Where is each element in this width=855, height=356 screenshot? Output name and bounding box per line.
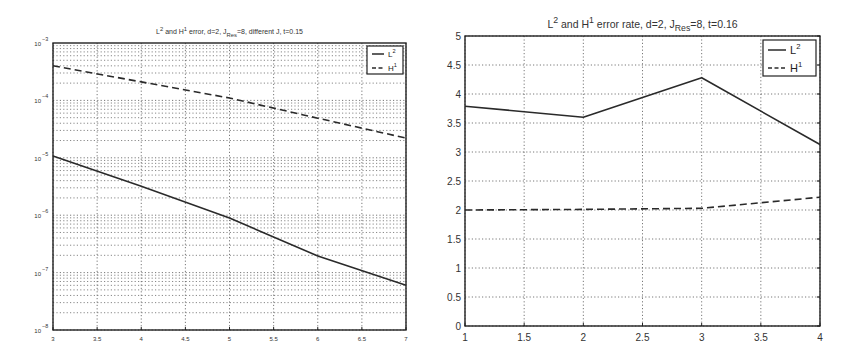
x-tick-label: 3.5: [93, 336, 102, 342]
x-tick-label: 4: [140, 336, 144, 342]
y-tick-label: 10: [34, 213, 41, 219]
x-tick-label: 7: [404, 336, 408, 342]
left-chart-title: L2 and H1 error, d=2, JRes=8, different …: [53, 26, 406, 38]
title-sub: Res: [227, 32, 237, 38]
x-tick-label: 3.5: [754, 332, 768, 343]
title-sub: Res: [675, 23, 691, 33]
x-tick-label: 5.5: [269, 336, 278, 342]
x-tick-label: 4: [817, 332, 823, 343]
y-tick-label: 3.5: [447, 118, 461, 129]
y-tick-label: 4: [455, 89, 461, 100]
title-text: =8, t=0.16: [690, 18, 737, 30]
y-tick-exponent: −5: [42, 151, 48, 157]
y-tick-label: 10: [34, 41, 41, 47]
x-tick-label: 6: [316, 336, 320, 342]
y-tick-exponent: −6: [42, 208, 48, 214]
right-chart-title: L2 and H1 error rate, d=2, JRes=8, t=0.1…: [465, 15, 820, 33]
legend-box: [367, 46, 403, 74]
right-chart-plot: 11.522.533.5400.511.522.533.544.55L2H1: [430, 0, 855, 356]
y-tick-label: 10: [34, 156, 41, 162]
title-text: and H: [163, 28, 184, 35]
x-tick-label: 4.5: [181, 336, 190, 342]
y-tick-label: 2.5: [447, 176, 461, 187]
x-tick-label: 2: [581, 332, 587, 343]
y-tick-label: 10: [34, 328, 41, 334]
y-tick-exponent: −8: [42, 323, 48, 329]
y-tick-label: 10: [34, 271, 41, 277]
left-chart-plot: 33.544.555.566.5710−310−410−510−610−710−…: [0, 0, 430, 356]
y-tick-label: 3: [455, 147, 461, 158]
y-tick-label: 4.5: [447, 60, 461, 71]
title-text: error rate, d=2, J: [594, 18, 675, 30]
y-tick-label: 0.5: [447, 292, 461, 303]
left-chart-log-error: L2 and H1 error, d=2, JRes=8, different …: [0, 0, 430, 356]
x-tick-label: 1.5: [517, 332, 531, 343]
x-tick-label: 5: [228, 336, 232, 342]
x-tick-label: 3: [699, 332, 705, 343]
y-tick-label: 1: [455, 263, 461, 274]
y-tick-label: 5: [455, 31, 461, 42]
y-tick-label: 10: [34, 98, 41, 104]
title-text: and H: [558, 18, 589, 30]
y-tick-exponent: −7: [42, 266, 48, 272]
y-tick-exponent: −3: [42, 36, 48, 42]
x-tick-label: 6.5: [358, 336, 367, 342]
x-tick-label: 3: [51, 336, 55, 342]
x-tick-label: 1: [462, 332, 468, 343]
x-tick-label: 2.5: [636, 332, 650, 343]
right-chart-error-rate: L2 and H1 error rate, d=2, JRes=8, t=0.1…: [430, 0, 855, 356]
y-tick-label: 0: [455, 321, 461, 332]
y-tick-exponent: −4: [42, 93, 48, 99]
y-tick-label: 2: [455, 205, 461, 216]
title-text: =8, different J, t=0.15: [237, 28, 303, 35]
y-tick-label: 1.5: [447, 234, 461, 245]
title-text: error, d=2, J: [187, 28, 227, 35]
